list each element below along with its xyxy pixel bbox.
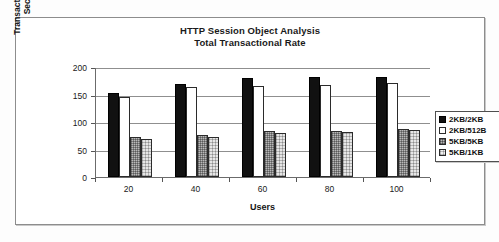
x-tick-label: 80: [310, 184, 350, 194]
legend-item: 5KB/5KB: [439, 136, 497, 147]
bar-2kb-2kb-20: [108, 93, 119, 177]
legend-label: 2KB/512B: [449, 126, 486, 135]
bar-5kb-5kb-60: [264, 131, 275, 177]
bar-5kb-5kb-80: [331, 131, 342, 177]
legend-item: 2KB/512B: [439, 125, 497, 136]
x-tick-label: 40: [176, 184, 216, 194]
bar-2kb-512b-20: [119, 97, 130, 177]
chart-title-line2: Total Transactional Rate: [16, 37, 484, 49]
legend-swatch-icon: [439, 127, 446, 134]
chart-title-line1: HTTP Session Object Analysis: [180, 25, 320, 36]
y-tick-label: 150: [61, 92, 87, 100]
y-axis-title: Transactrions per Second: [12, 0, 32, 64]
bar-5kb-5kb-40: [197, 135, 208, 177]
x-tick-mark: [95, 178, 96, 182]
plot-area: [95, 68, 430, 178]
legend-label: 5KB/5KB: [449, 137, 483, 146]
bar-5kb-1kb-60: [275, 133, 286, 177]
bar-2kb-512b-100: [387, 83, 398, 177]
chart-title: HTTP Session Object Analysis Total Trans…: [16, 25, 484, 49]
legend-swatch-icon: [439, 138, 446, 145]
x-tick-mark: [363, 178, 364, 182]
legend-swatch-icon: [439, 149, 446, 156]
legend-label: 5KB/1KB: [449, 148, 483, 157]
x-tick-label: 20: [109, 184, 149, 194]
y-tick-label: 0: [61, 174, 87, 182]
bar-5kb-1kb-100: [409, 130, 420, 177]
x-tick-label: 60: [243, 184, 283, 194]
bar-2kb-512b-60: [253, 86, 264, 177]
x-tick-label: 100: [377, 184, 417, 194]
legend-label: 2KB/2KB: [449, 115, 483, 124]
legend-item: 2KB/2KB: [439, 114, 497, 125]
x-tick-mark: [162, 178, 163, 182]
bar-5kb-1kb-80: [342, 132, 353, 177]
bar-2kb-512b-80: [320, 85, 331, 177]
bar-2kb-2kb-60: [242, 78, 253, 177]
x-axis-title: Users: [95, 202, 430, 212]
y-axis-title-line1: Transactrions per: [12, 0, 22, 35]
bar-2kb-512b-40: [186, 87, 197, 177]
chart-legend: 2KB/2KB2KB/512B5KB/5KB5KB/1KB: [435, 111, 499, 162]
bar-5kb-1kb-20: [141, 139, 152, 177]
gridline: [96, 68, 430, 69]
legend-item: 5KB/1KB: [439, 147, 497, 158]
bar-2kb-2kb-40: [175, 84, 186, 178]
y-tick-label: 100: [61, 119, 87, 127]
legend-swatch-icon: [439, 116, 446, 123]
bar-2kb-2kb-100: [376, 77, 387, 177]
bar-5kb-5kb-100: [398, 129, 409, 177]
x-tick-mark: [430, 178, 431, 182]
x-tick-mark: [229, 178, 230, 182]
y-tick-label: 50: [61, 147, 87, 155]
x-tick-mark: [296, 178, 297, 182]
bar-5kb-1kb-40: [208, 137, 219, 177]
bar-5kb-5kb-20: [130, 137, 141, 177]
y-tick-label: 200: [61, 64, 87, 72]
chart-frame: HTTP Session Object Analysis Total Trans…: [15, 17, 485, 225]
y-axis-title-line2: Second: [22, 0, 32, 64]
bar-2kb-2kb-80: [309, 77, 320, 177]
